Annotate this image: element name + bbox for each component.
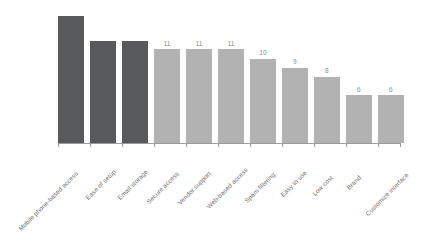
category-label: Secure access (145, 170, 180, 205)
category-label: Customize interface (364, 171, 410, 217)
bar-chart: 15 12 12 11 11 11 10 (0, 0, 427, 239)
category-label: Brand (345, 174, 362, 191)
category-label: Ease of setup (84, 168, 117, 201)
category-label: Low cost (311, 174, 334, 197)
category-label: Easy to use (279, 169, 308, 198)
category-label: Mobile phone-based access (17, 170, 79, 232)
category-labels: Mobile phone-based access Ease of setup … (0, 0, 427, 239)
category-label: Vendor support (176, 170, 212, 206)
category-label: Spam filtering (243, 171, 276, 204)
category-label: Email storage (116, 168, 149, 201)
category-label: Web-based access (205, 166, 249, 210)
